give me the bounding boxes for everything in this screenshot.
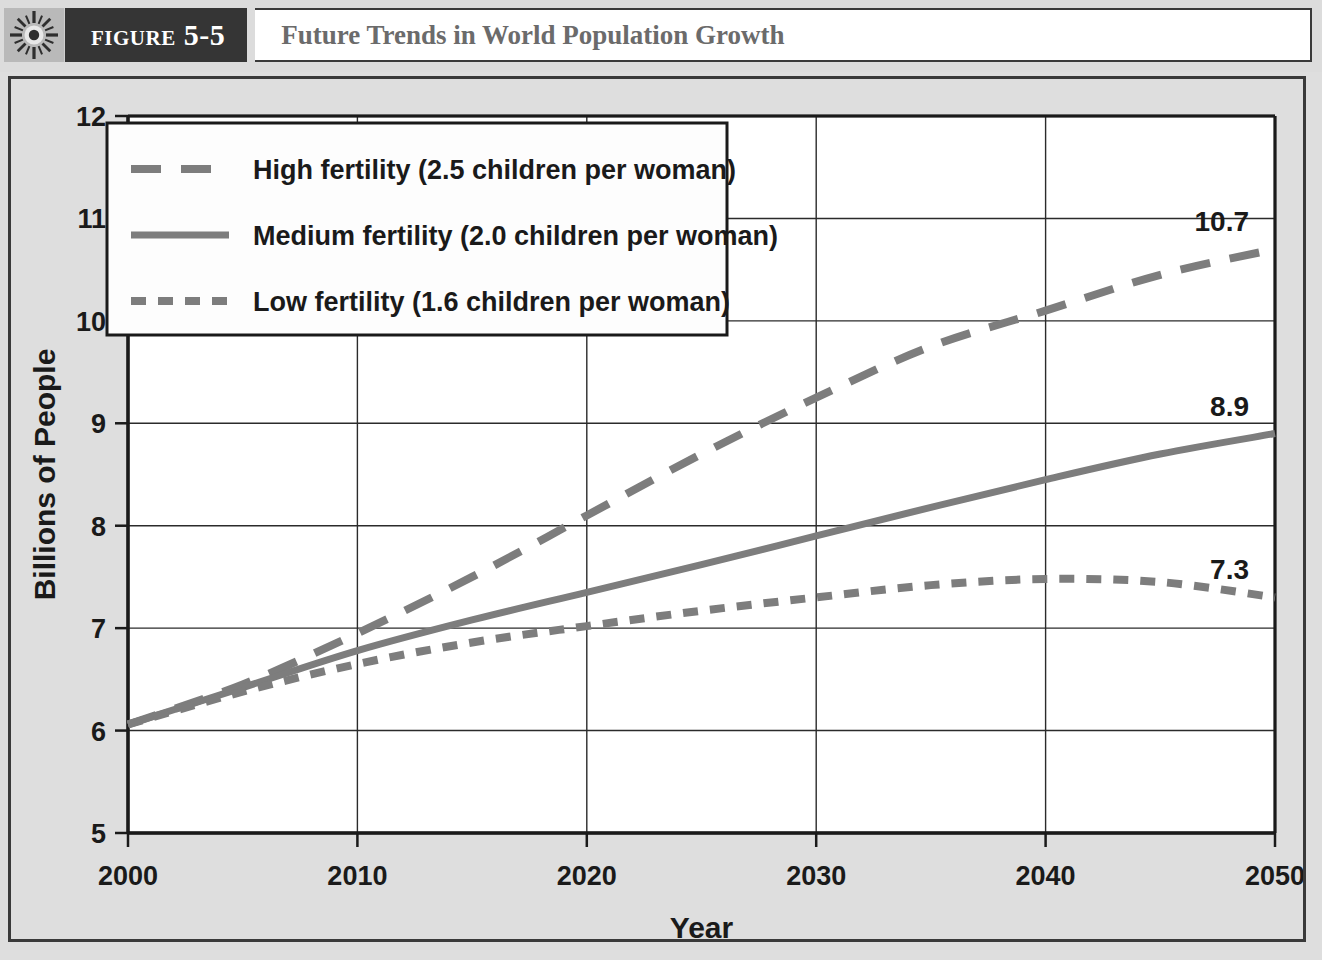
y-axis-tick-label: 12 bbox=[76, 102, 106, 132]
end-label-low: 7.3 bbox=[1210, 554, 1249, 585]
x-axis-tick-label: 2000 bbox=[98, 861, 158, 891]
figure-header: Figure 5-5 Future Trends in World Popula… bbox=[0, 0, 1322, 72]
figure-number-label: Figure 5-5 bbox=[91, 18, 225, 52]
figure-root: Figure 5-5 Future Trends in World Popula… bbox=[0, 0, 1322, 960]
x-axis-tick-label: 2040 bbox=[1016, 861, 1076, 891]
figure-title-bar: Future Trends in World Population Growth bbox=[255, 8, 1312, 62]
y-axis-tick-label: 6 bbox=[91, 717, 106, 747]
page-title: Future Trends in World Population Growth bbox=[281, 20, 784, 51]
legend-label-medium: Medium fertility (2.0 children per woman… bbox=[253, 221, 778, 251]
legend-label-low: Low fertility (1.6 children per woman) bbox=[253, 287, 730, 317]
x-axis-title: Year bbox=[670, 911, 734, 939]
chart-frame: 56789101112200020102020203020402050YearB… bbox=[8, 76, 1306, 942]
x-axis-tick-label: 2050 bbox=[1245, 861, 1303, 891]
y-axis-tick-label: 7 bbox=[91, 614, 106, 644]
y-axis-title: Billions of People bbox=[28, 349, 61, 601]
figure-number-badge: Figure 5-5 bbox=[65, 8, 247, 62]
y-axis-tick-label: 5 bbox=[91, 819, 106, 849]
legend-label-high: High fertility (2.5 children per woman) bbox=[253, 155, 736, 185]
end-label-high: 10.7 bbox=[1195, 206, 1250, 237]
y-axis-tick-label: 8 bbox=[91, 512, 106, 542]
line-chart: 56789101112200020102020203020402050YearB… bbox=[11, 79, 1303, 939]
y-axis-tick-label: 9 bbox=[91, 409, 106, 439]
y-axis-tick-label: 11 bbox=[77, 204, 106, 234]
y-axis-tick-label: 10 bbox=[76, 307, 106, 337]
x-axis-tick-label: 2020 bbox=[557, 861, 617, 891]
end-label-medium: 8.9 bbox=[1210, 391, 1249, 422]
x-axis-tick-label: 2010 bbox=[327, 861, 387, 891]
sunburst-icon bbox=[4, 8, 65, 62]
x-axis-tick-label: 2030 bbox=[786, 861, 846, 891]
